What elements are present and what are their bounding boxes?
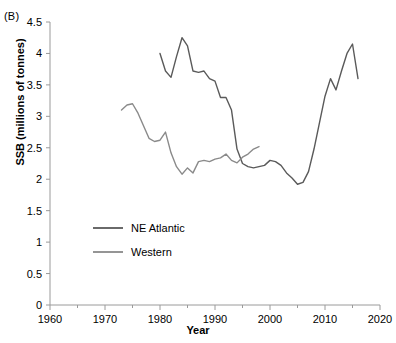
x-axis-tick-label: 1960 bbox=[38, 313, 62, 325]
x-axis-tick-label: 2020 bbox=[368, 313, 392, 325]
line-chart-svg: 00.511.522.533.544.519601970198019902000… bbox=[0, 0, 396, 343]
x-axis-tick-label: 1970 bbox=[93, 313, 117, 325]
series-line-western bbox=[122, 104, 260, 174]
y-axis-tick-label: 2.5 bbox=[27, 142, 42, 154]
x-axis-tick-label: 2000 bbox=[258, 313, 282, 325]
y-axis-tick-label: 0 bbox=[36, 299, 42, 311]
series-line-ne-atlantic bbox=[160, 38, 358, 185]
figure-panel-b: (B) SSB (millions of tonnes) Year 00.511… bbox=[0, 0, 396, 343]
x-axis-tick-label: 2010 bbox=[313, 313, 337, 325]
x-axis-tick-label: 1990 bbox=[203, 313, 227, 325]
y-axis-tick-label: 1 bbox=[36, 236, 42, 248]
y-axis-tick-label: 3.5 bbox=[27, 79, 42, 91]
x-axis-tick-label: 1980 bbox=[148, 313, 172, 325]
y-axis-tick-label: 3 bbox=[36, 110, 42, 122]
legend-label-2: Western bbox=[131, 246, 172, 258]
y-axis-tick-label: 2 bbox=[36, 173, 42, 185]
y-axis-tick-label: 4.5 bbox=[27, 16, 42, 28]
y-axis-tick-label: 0.5 bbox=[27, 268, 42, 280]
legend-label-1: NE Atlantic bbox=[131, 222, 185, 234]
y-axis-tick-label: 1.5 bbox=[27, 205, 42, 217]
y-axis-tick-label: 4 bbox=[36, 47, 42, 59]
